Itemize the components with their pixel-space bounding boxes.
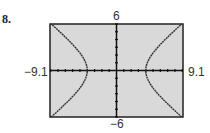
- graph-window: [0, 0, 210, 133]
